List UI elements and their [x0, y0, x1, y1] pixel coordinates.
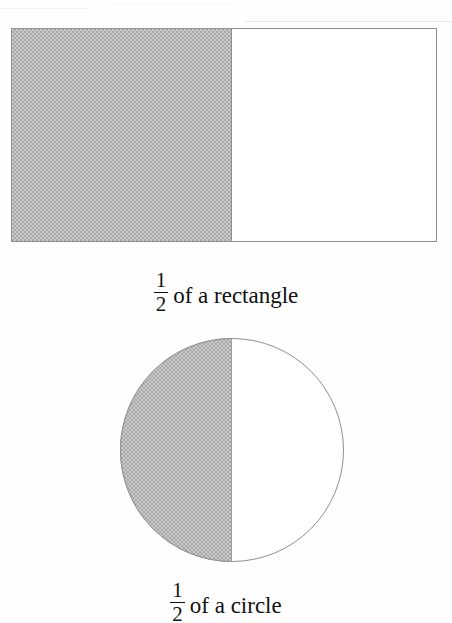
rectangle-caption: 1 2 of a rectangle — [0, 270, 452, 316]
scan-artifact — [246, 21, 452, 22]
fraction-numerator: 1 — [154, 270, 169, 293]
circle-shaded-half-fill — [120, 338, 232, 562]
rectangle-shaded-half — [11, 28, 232, 242]
fraction-denominator: 2 — [170, 603, 185, 623]
circle-caption-label: of a circle — [190, 594, 282, 617]
fraction-one-half: 1 2 — [154, 270, 169, 316]
scan-artifact — [40, 16, 220, 17]
fraction-one-half: 1 2 — [170, 580, 185, 623]
circle-shaded-half — [120, 338, 232, 562]
rectangle-caption-label: of a rectangle — [173, 284, 298, 307]
circle-figure — [120, 338, 344, 562]
scan-artifact — [0, 8, 90, 9]
circle-divider-line — [231, 339, 232, 561]
worksheet-page: 1 2 of a rectangle 1 2 of a circle — [0, 0, 452, 623]
circle-caption: 1 2 of a circle — [0, 580, 452, 623]
fraction-denominator: 2 — [154, 293, 169, 315]
scan-artifact — [110, 4, 230, 5]
rectangle-figure — [11, 28, 437, 242]
fraction-numerator: 1 — [170, 580, 185, 603]
